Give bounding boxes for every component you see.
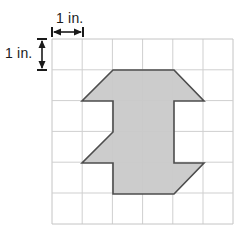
vertical-dimension-label: 1 in. — [5, 45, 32, 61]
arrow-head-right-icon — [74, 29, 82, 36]
figure-container: 1 in. 1 in. — [0, 0, 242, 229]
arrow-head-down-icon — [39, 61, 46, 69]
composite-shape-polygon — [82, 70, 204, 194]
vertical-dimension-arrow — [37, 39, 47, 70]
grid-figure-svg — [0, 0, 242, 229]
arrow-head-left-icon — [53, 29, 61, 36]
horizontal-dimension-label: 1 in. — [56, 10, 83, 26]
arrow-head-up-icon — [39, 40, 46, 48]
horizontal-dimension-arrow — [52, 27, 83, 37]
